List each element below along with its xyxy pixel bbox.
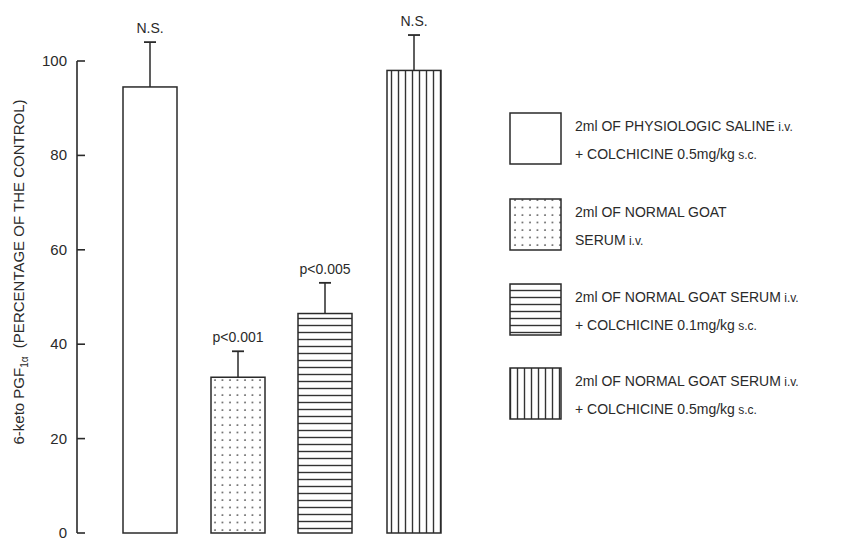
bar-chart — [0, 0, 863, 559]
legend-swatches — [510, 113, 561, 419]
bar-2 — [211, 377, 265, 533]
y-tick-label: 60 — [27, 241, 67, 258]
significance-label: p<0.005 — [300, 261, 351, 277]
significance-label: N.S. — [400, 13, 427, 29]
legend-label: 2ml OF NORMAL GOAT SERUM i.v. — [575, 199, 727, 255]
y-tick-label: 80 — [27, 146, 67, 163]
bar-1 — [123, 87, 177, 533]
y-tick-label: 20 — [27, 430, 67, 447]
y-axis — [77, 61, 85, 533]
legend-swatch-vertical-lines — [510, 368, 561, 419]
legend-swatch-none — [510, 113, 561, 164]
y-tick-label: 40 — [27, 335, 67, 352]
legend-swatch-dots — [510, 199, 561, 250]
bar-3 — [298, 314, 352, 533]
y-tick-label: 0 — [27, 524, 67, 541]
legend-label: 2ml OF NORMAL GOAT SERUM i.v. + COLCHICI… — [575, 284, 799, 340]
bars — [123, 35, 441, 533]
legend-label: 2ml OF NORMAL GOAT SERUM i.v. + COLCHICI… — [575, 368, 799, 424]
legend-swatch-horizontal-lines — [510, 284, 561, 335]
bar-4 — [387, 70, 441, 533]
significance-label: N.S. — [136, 20, 163, 36]
legend-label: 2ml OF PHYSIOLOGIC SALINE i.v. + COLCHIC… — [575, 113, 793, 169]
significance-label: p<0.001 — [213, 329, 264, 345]
y-tick-label: 100 — [27, 52, 67, 69]
